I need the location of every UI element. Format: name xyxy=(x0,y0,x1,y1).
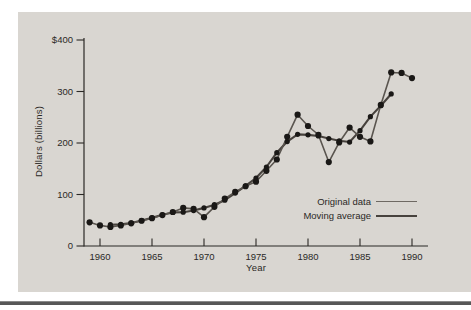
legend-label-moving-average: Moving average xyxy=(303,210,371,221)
data-point-dot xyxy=(315,132,321,138)
data-point-dot xyxy=(139,218,145,224)
x-tick-label: 1970 xyxy=(193,251,214,262)
legend-item-moving-average: Moving average xyxy=(303,210,417,221)
y-tick-label: 200 xyxy=(57,137,73,148)
y-tick-label: 300 xyxy=(57,86,73,97)
data-point-dot xyxy=(336,139,342,145)
data-point-dot xyxy=(243,183,249,189)
data-point-dot xyxy=(367,138,373,144)
data-point-dot xyxy=(295,112,301,118)
x-tick-label: 1980 xyxy=(297,251,318,262)
data-point-dot xyxy=(305,123,311,129)
x-tick-label: 1960 xyxy=(89,251,110,262)
x-tick-label: 1985 xyxy=(349,251,370,262)
moving-average-point-dot xyxy=(201,205,206,210)
data-point-dot xyxy=(97,222,103,228)
moving-average-point-dot xyxy=(357,128,362,133)
legend-item-original-data: Original data xyxy=(317,196,417,207)
moving-average-point-dot xyxy=(347,139,352,144)
moving-average-point-dot xyxy=(295,132,300,137)
moving-average-point-dot xyxy=(274,150,279,155)
page-root: 0100200300$40019601965197019751980198519… xyxy=(0,0,471,310)
original-data-line-swatch xyxy=(376,201,417,202)
data-point-dot xyxy=(149,215,155,221)
data-point-dot xyxy=(357,134,363,140)
data-point-dot xyxy=(284,134,290,140)
y-tick-label: $400 xyxy=(52,34,73,45)
x-axis-title: Year xyxy=(226,262,286,273)
x-tick-label: 1975 xyxy=(245,251,266,262)
data-point-dot xyxy=(191,206,197,212)
data-point-dot xyxy=(201,214,207,220)
data-point-dot xyxy=(347,124,353,130)
moving-average-point-dot xyxy=(389,91,394,96)
moving-average-point-dot xyxy=(368,114,373,119)
data-point-dot xyxy=(274,156,280,162)
data-point-dot xyxy=(87,219,93,225)
data-point-dot xyxy=(326,159,332,165)
data-point-dot xyxy=(378,102,384,108)
data-point-dot xyxy=(388,69,394,75)
moving-average-point-dot xyxy=(305,132,310,137)
data-point-dot xyxy=(107,224,113,230)
data-point-dot xyxy=(253,179,259,185)
data-point-dot xyxy=(399,70,405,76)
moving-average-line-swatch xyxy=(376,215,417,217)
data-point-dot xyxy=(222,196,228,202)
data-point-dot xyxy=(170,209,176,215)
data-point-dot xyxy=(211,204,217,210)
chart-legend: Original data Moving average xyxy=(303,196,417,221)
legend-label-original-data: Original data xyxy=(317,196,371,207)
data-point-dot xyxy=(128,220,134,226)
data-point-dot xyxy=(409,75,415,81)
data-point-dot xyxy=(118,222,124,228)
moving-average-point-dot xyxy=(326,136,331,141)
y-tick-label: 0 xyxy=(68,240,73,251)
y-tick-label: 100 xyxy=(57,189,73,200)
data-point-dot xyxy=(159,212,165,218)
data-point-dot xyxy=(232,189,238,195)
x-tick-label: 1990 xyxy=(401,251,422,262)
page-bottom-divider xyxy=(0,301,471,305)
y-axis-title: Dollars (billions) xyxy=(33,72,44,212)
x-tick-label: 1965 xyxy=(141,251,162,262)
data-point-dot xyxy=(180,205,186,211)
data-point-dot xyxy=(263,168,269,174)
